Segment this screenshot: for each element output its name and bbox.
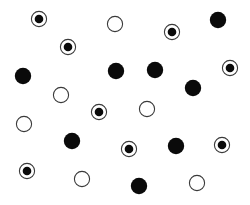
target-circle-icon	[19, 163, 34, 178]
target-circle-icon	[222, 60, 237, 75]
open-circle-icon	[139, 101, 154, 116]
filled-circle-icon	[108, 63, 124, 79]
open-circle-icon	[189, 175, 204, 190]
open-circle-icon	[107, 16, 122, 31]
open-circle-icon	[53, 87, 68, 102]
dot-pattern-diagram	[0, 0, 250, 205]
filled-circle-icon	[131, 178, 147, 194]
open-circle-icon	[74, 171, 89, 186]
filled-circle-icon	[185, 80, 201, 96]
filled-circle-icon	[168, 138, 184, 154]
filled-circle-icon	[147, 62, 163, 78]
target-circle-icon	[121, 141, 136, 156]
open-circle-icon	[16, 116, 31, 131]
target-circle-icon	[164, 24, 179, 39]
filled-circle-icon	[64, 133, 80, 149]
filled-circle-icon	[210, 12, 226, 28]
target-circle-icon	[31, 11, 46, 26]
target-circle-icon	[60, 39, 75, 54]
target-circle-icon	[91, 104, 106, 119]
target-circle-icon	[214, 137, 229, 152]
background	[0, 0, 250, 205]
filled-circle-icon	[15, 68, 31, 84]
